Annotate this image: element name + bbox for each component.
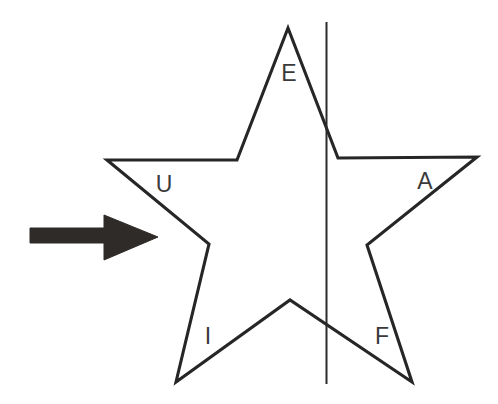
star-label-a: A bbox=[417, 168, 433, 194]
star-label-e: E bbox=[281, 60, 296, 86]
star-label-u: U bbox=[156, 171, 173, 197]
figure-canvas: E U A I F bbox=[0, 0, 498, 404]
incoming-arrow-icon bbox=[30, 215, 158, 260]
star-reflection-figure: E U A I F bbox=[0, 0, 498, 404]
star-label-i: I bbox=[205, 323, 211, 349]
star-label-f: F bbox=[375, 323, 389, 349]
